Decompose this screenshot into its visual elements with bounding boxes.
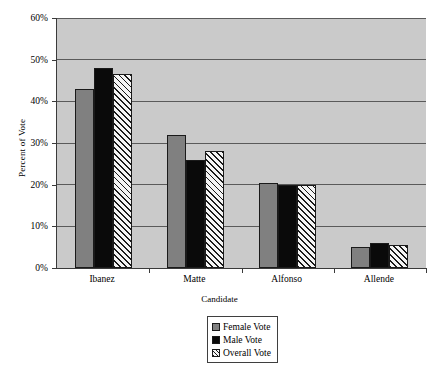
legend-swatch-icon xyxy=(212,336,220,344)
bar xyxy=(167,135,186,268)
bar-group xyxy=(242,18,334,268)
bar xyxy=(94,68,113,268)
bar xyxy=(75,89,94,268)
y-tick-label: 30% xyxy=(31,138,48,148)
legend-label: Female Vote xyxy=(223,322,270,332)
x-tick-label: Matte xyxy=(183,274,205,284)
x-axis-title: Candidate xyxy=(0,294,439,304)
y-axis-title: Percent of Vote xyxy=(17,83,27,213)
legend-item: Overall Vote xyxy=(212,346,271,359)
legend-item: Male Vote xyxy=(212,333,271,346)
y-tick-label: 0% xyxy=(35,263,48,273)
bar xyxy=(186,160,205,268)
legend: Female VoteMale VoteOverall Vote xyxy=(207,316,278,363)
bar-group xyxy=(57,18,149,268)
bar xyxy=(113,74,132,268)
x-tick-mark xyxy=(149,268,150,273)
x-tick-mark xyxy=(242,268,243,273)
x-tick-label: Allende xyxy=(364,274,394,284)
bar xyxy=(370,243,389,268)
bar xyxy=(205,151,224,268)
y-tick-label: 50% xyxy=(31,55,48,65)
y-tick-label: 40% xyxy=(31,96,48,106)
bar-group xyxy=(149,18,241,268)
bar-group xyxy=(334,18,426,268)
y-tick-label: 60% xyxy=(31,13,48,23)
legend-swatch-icon xyxy=(212,323,220,331)
y-tick-label: 10% xyxy=(31,221,48,231)
x-tick-label: Ibanez xyxy=(89,274,114,284)
x-tick-label: Alfonso xyxy=(271,274,302,284)
bar xyxy=(297,185,316,268)
legend-swatch-icon xyxy=(212,349,220,357)
bar xyxy=(389,245,408,268)
legend-item: Female Vote xyxy=(212,320,271,333)
legend-label: Male Vote xyxy=(223,335,262,345)
y-tick-label: 20% xyxy=(31,180,48,190)
plot-area: 0%10%20%30%40%50%60% xyxy=(56,18,426,269)
x-tick-mark xyxy=(426,268,427,273)
bar-chart: Percent of Vote 0%10%20%30%40%50%60% Iba… xyxy=(0,0,439,372)
x-tick-mark xyxy=(334,268,335,273)
bar xyxy=(278,185,297,268)
y-tick-mark xyxy=(52,268,57,269)
bar xyxy=(351,247,370,268)
legend-label: Overall Vote xyxy=(223,348,271,358)
bar xyxy=(259,183,278,268)
